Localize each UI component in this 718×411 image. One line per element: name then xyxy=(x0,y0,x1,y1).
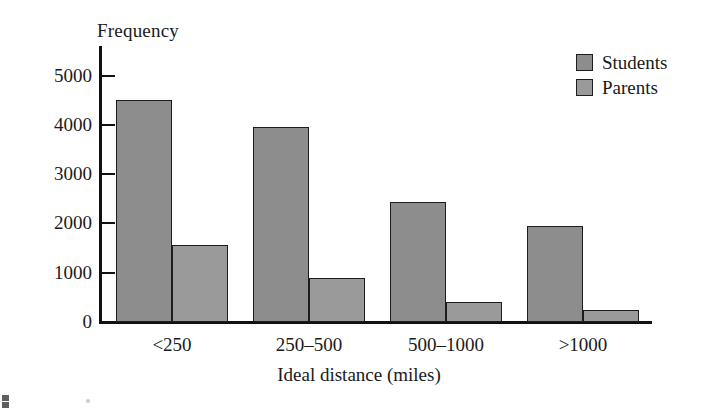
x-axis-title: Ideal distance (miles) xyxy=(0,364,718,386)
x-axis-category-label: >1000 xyxy=(513,334,653,356)
scan-artifact xyxy=(2,395,9,408)
bar-students-4 xyxy=(527,226,583,322)
bar-parents-3 xyxy=(446,302,502,322)
bar-group xyxy=(253,46,365,322)
bar-parents-2 xyxy=(309,278,365,322)
y-axis-tick-label: 2000 xyxy=(26,213,92,232)
y-axis-tick-label: 0 xyxy=(26,312,92,331)
y-axis-tick-label: 3000 xyxy=(26,164,92,183)
bar-students-1 xyxy=(116,100,172,322)
y-axis-tick-label: 4000 xyxy=(26,115,92,134)
y-axis-title: Frequency xyxy=(97,20,179,42)
legend-item: Parents xyxy=(576,75,667,100)
bar-group xyxy=(390,46,502,322)
y-axis-tick-label: 1000 xyxy=(26,263,92,282)
x-axis-category-label: 250–500 xyxy=(239,334,379,356)
bar-parents-1 xyxy=(172,245,228,322)
x-axis-category-label: 500–1000 xyxy=(376,334,516,356)
legend-item: Students xyxy=(576,50,667,75)
bar-parents-4 xyxy=(583,310,639,322)
legend-label: Students xyxy=(602,53,667,72)
y-axis-tick-label: 5000 xyxy=(26,66,92,85)
legend-swatch-icon xyxy=(576,79,593,96)
legend-label: Parents xyxy=(602,78,658,97)
bar-students-3 xyxy=(390,202,446,322)
legend: StudentsParents xyxy=(576,50,667,100)
legend-swatch-icon xyxy=(576,54,593,71)
bar-group xyxy=(116,46,228,322)
bar-students-2 xyxy=(253,127,309,322)
plot-area xyxy=(102,46,652,322)
bar-chart: Frequency 010002000300040005000 <250250–… xyxy=(0,0,718,411)
scan-speck xyxy=(86,399,90,403)
x-axis-category-label: <250 xyxy=(102,334,242,356)
